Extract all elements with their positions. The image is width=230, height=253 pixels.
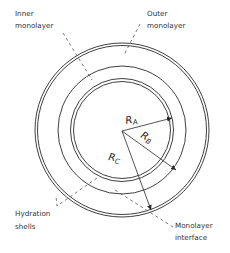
radius-a-label: RA: [124, 113, 138, 128]
hydration-shells-label: Hydration shells: [15, 209, 53, 231]
monolayer-interface-ring: [58, 66, 186, 194]
radius-b-label: RB: [138, 129, 155, 146]
inner-monolayer-label: Inner monolayer: [15, 9, 53, 30]
radius-c-label: RC: [107, 151, 121, 166]
inner-monolayer-leader: [63, 33, 92, 80]
outer-monolayer-label: Outer monolayer: [147, 9, 185, 30]
outer-hydration-shell: [35, 43, 209, 217]
inner-hydration-shell: [71, 79, 174, 182]
outer-monolayer-leader: [124, 24, 140, 55]
monolayer-interface-label: Monolayer interface: [175, 221, 215, 242]
hydration-shells-leader: [56, 178, 97, 206]
vesicle-diagram: RA RB RC Inner monolayer Outer monolayer…: [0, 0, 230, 253]
monolayer-interface-leader: [115, 190, 173, 227]
